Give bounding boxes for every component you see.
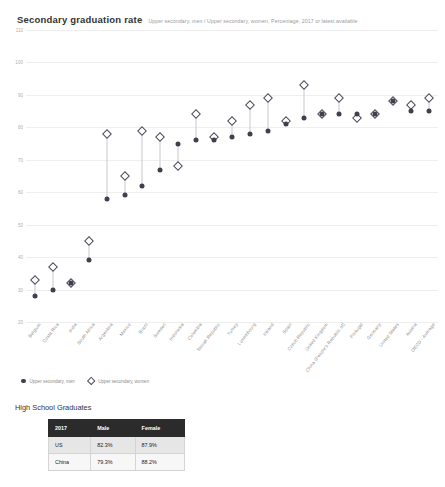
table-cell-male: 79.3% [91, 454, 135, 471]
x-axis-tick-label: South Africa [76, 322, 96, 346]
data-point-women [102, 129, 112, 139]
high-school-graduates-table: 2017 Male Female US82.3%87.9%China79.3%8… [48, 419, 185, 471]
legend-item[interactable]: Upper secondary, men [21, 379, 75, 384]
x-axis-tick-label: United States [378, 322, 400, 348]
chart-legend: Upper secondary, menUpper secondary, wom… [21, 378, 149, 384]
data-point-men [212, 138, 217, 143]
chart-subtitle: Upper secondary, men / Upper secondary, … [148, 18, 357, 24]
data-point-men [319, 112, 324, 117]
data-point-men [140, 183, 145, 188]
data-point-men [373, 112, 378, 117]
data-point-women [120, 171, 130, 181]
plot-area: 1101009080706050403020 [26, 30, 438, 322]
page-title: Secondary graduation rate [17, 14, 142, 25]
y-axis-tick: 80 [18, 125, 23, 130]
grid-line [26, 290, 438, 291]
table-header-row: 2017 Male Female [49, 420, 185, 437]
data-point-men [194, 138, 199, 143]
data-point-women [299, 80, 309, 90]
x-axis-tick-label: Sweden [153, 322, 168, 339]
y-axis-tick: 20 [18, 320, 23, 325]
data-point-men [122, 193, 127, 198]
y-axis-tick: 30 [18, 287, 23, 292]
x-axis-tick-label: Portugal [349, 322, 364, 339]
data-point-women [48, 262, 58, 272]
x-axis-tick-label: Argentina [97, 322, 114, 341]
x-axis-tick-label: Luxembourg [237, 322, 257, 346]
grid-line [26, 30, 438, 31]
x-axis-tick-label: Spain [281, 322, 292, 335]
grid-line [26, 225, 438, 226]
legend-item[interactable]: Upper secondary, women [88, 378, 149, 384]
grid-line [26, 160, 438, 161]
connector-line [142, 131, 143, 186]
data-point-women [84, 236, 94, 246]
legend-label: Upper secondary, women [98, 379, 149, 384]
x-axis-tick-label: Brazil [138, 322, 149, 335]
x-axis-tick-label: India [67, 322, 77, 333]
table-cell-female: 87.9% [135, 437, 184, 454]
data-point-men [247, 131, 252, 136]
data-point-men [409, 109, 414, 114]
x-axis-tick-label: Mexico [118, 322, 131, 337]
grid-line [26, 95, 438, 96]
legend-label: Upper secondary, men [30, 379, 75, 384]
data-point-men [355, 112, 360, 117]
x-axis-tick-label: Ireland [262, 322, 275, 337]
x-axis-tick-label: Turkey [226, 322, 239, 336]
data-point-men [391, 99, 396, 104]
data-point-men [176, 141, 181, 146]
y-axis-tick: 90 [18, 92, 23, 97]
table-row: China79.3%88.2% [49, 454, 185, 471]
table-col-male: Male [91, 420, 135, 437]
chart-page: Secondary graduation rate Upper secondar… [0, 0, 445, 487]
table-cell-country: US [49, 437, 91, 454]
x-axis-tick-label: Costa Rica [41, 322, 59, 344]
data-point-men [86, 258, 91, 263]
data-point-men [337, 112, 342, 117]
x-axis-tick-label: Indonesia [168, 322, 185, 341]
grid-line [26, 192, 438, 193]
table-cell-country: China [49, 454, 91, 471]
table-cell-female: 88.2% [135, 454, 184, 471]
y-axis-tick: 70 [18, 157, 23, 162]
legend-circle-icon [21, 379, 26, 384]
table-col-year: 2017 [49, 420, 91, 437]
table-title: High School Graduates [15, 403, 91, 412]
data-point-men [158, 167, 163, 172]
x-axis-tick-label: Colombia [187, 322, 203, 341]
data-point-women [245, 100, 255, 110]
y-axis-tick: 60 [18, 190, 23, 195]
data-point-women [173, 161, 183, 171]
grid-line [26, 62, 438, 63]
y-axis-tick: 100 [15, 60, 23, 65]
x-axis-tick-label: Germany [366, 322, 382, 341]
x-axis-labels: BelgiumCosta RicaIndiaSouth AfricaArgent… [26, 322, 438, 378]
data-point-women [227, 116, 237, 126]
data-point-men [104, 196, 109, 201]
chart-header: Secondary graduation rate Upper secondar… [17, 14, 357, 25]
table-col-female: Female [135, 420, 184, 437]
data-point-men [50, 287, 55, 292]
data-point-men [283, 122, 288, 127]
data-point-men [32, 294, 37, 299]
data-point-women [30, 275, 40, 285]
x-axis-tick-label: Belgium [27, 322, 42, 339]
data-point-men [265, 128, 270, 133]
y-axis-tick: 50 [18, 222, 23, 227]
data-point-men [427, 109, 432, 114]
legend-diamond-icon [86, 377, 95, 386]
table-row: US82.3%87.9% [49, 437, 185, 454]
connector-line [106, 134, 107, 199]
data-point-men [230, 135, 235, 140]
x-axis-tick-label: Austria [405, 322, 418, 337]
table-cell-male: 82.3% [91, 437, 135, 454]
y-axis-tick: 40 [18, 255, 23, 260]
data-point-women [191, 109, 201, 119]
data-point-men [68, 281, 73, 286]
data-point-women [155, 132, 165, 142]
y-axis-tick: 110 [16, 28, 23, 33]
data-point-men [301, 115, 306, 120]
